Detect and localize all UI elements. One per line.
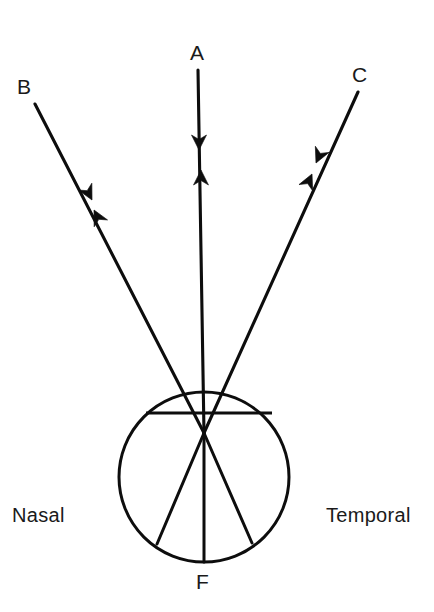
ray-a-label: A: [190, 42, 204, 63]
ray-b-image-segment: [157, 433, 204, 544]
fovea-label: F: [196, 571, 209, 592]
optics-diagram-figure: A B C F Nasal Temporal: [0, 0, 434, 612]
ray-c-object-segment: [204, 92, 358, 433]
temporal-side-label: Temporal: [326, 505, 411, 525]
ray-b-object-segment: [35, 104, 204, 433]
nasal-side-label: Nasal: [12, 505, 65, 525]
ray-a-object-segment: [198, 70, 204, 433]
ray-c-label: C: [352, 64, 367, 85]
ray-c-image-segment: [204, 433, 252, 543]
ray-b-label: B: [17, 76, 31, 97]
